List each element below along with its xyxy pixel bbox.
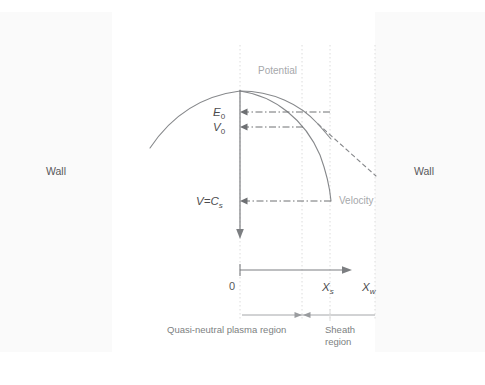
vcs-label: V=Cs xyxy=(196,195,223,210)
sheath-region-label-line1: Sheath xyxy=(325,324,355,335)
region-arrowhead-right xyxy=(303,312,311,318)
e0-arrowhead xyxy=(240,109,248,116)
potential-dashed-extension xyxy=(318,124,376,176)
x-axis-xw-label: Xw xyxy=(361,281,377,296)
vcs-arrowhead xyxy=(240,198,248,205)
velocity-label: Velocity xyxy=(339,195,373,206)
x-axis-xs-label: Xs xyxy=(321,281,334,296)
left-wall-label: Wall xyxy=(46,165,66,177)
xs-subscript: s xyxy=(330,287,334,296)
plasma-region-label: Quasi-neutral plasma region xyxy=(167,324,286,335)
vcs-symbol: V=C xyxy=(196,195,219,207)
velocity-curve xyxy=(240,91,331,201)
right-wall-label: Wall xyxy=(414,165,434,177)
left-wall-band xyxy=(0,12,112,352)
vertical-axis-arrowhead xyxy=(236,229,244,239)
potential-label: Potential xyxy=(258,65,297,76)
v0-subscript: 0 xyxy=(221,127,226,136)
region-arrowhead-left xyxy=(295,312,303,318)
sheath-region-label-line2: region xyxy=(325,336,351,347)
x-axis-origin-label: 0 xyxy=(229,280,235,292)
right-wall-band xyxy=(375,12,485,352)
x-axis-arrowhead xyxy=(342,266,352,274)
vcs-subscript: s xyxy=(219,201,223,210)
e0-subscript: 0 xyxy=(221,112,226,121)
v0-arrowhead xyxy=(240,124,248,131)
e0-label: E0 xyxy=(213,106,226,121)
diagram-canvas: Wall Wall Potential Velocity E0 V0 V=Cs … xyxy=(0,0,485,385)
plasma-sheath-diagram: Wall Wall Potential Velocity E0 V0 V=Cs … xyxy=(0,0,485,385)
v0-label: V0 xyxy=(213,121,226,136)
